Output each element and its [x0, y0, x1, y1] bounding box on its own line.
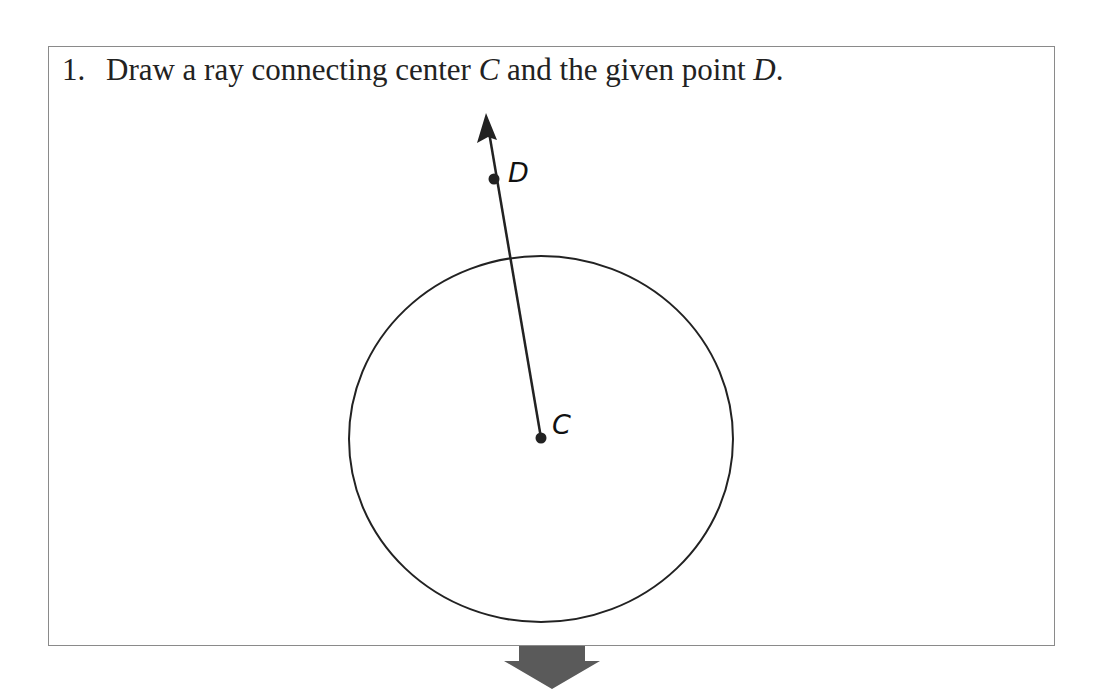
point-c-label: C — [552, 409, 571, 440]
point-d-label: D — [508, 157, 529, 188]
point-d — [489, 174, 500, 185]
point-c — [536, 433, 547, 444]
ray-arrowhead-icon — [477, 113, 497, 143]
continue-down-arrow-icon — [504, 646, 600, 689]
geometry-figure: D C — [0, 0, 1102, 689]
